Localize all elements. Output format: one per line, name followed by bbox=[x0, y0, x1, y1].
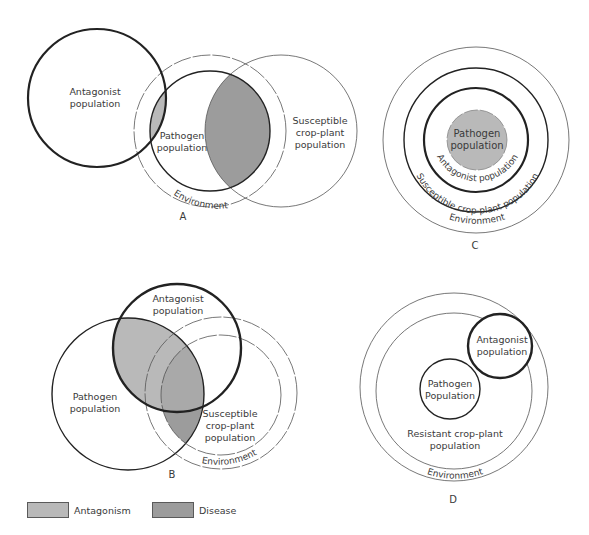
diagram-canvas: Antagonist population Pathogen populatio… bbox=[0, 0, 589, 535]
pathogen-label-d: Pathogen bbox=[428, 378, 473, 389]
pathogen-circle-d bbox=[420, 359, 480, 419]
antagonism-swatch bbox=[27, 502, 69, 518]
panel-d: Antagonist population Pathogen Populatio… bbox=[360, 293, 548, 505]
antagonist-label-d-2: population bbox=[477, 346, 528, 357]
panel-b: Antagonist population Pathogen populatio… bbox=[0, 260, 320, 490]
crop-label-d-2: population bbox=[430, 440, 481, 451]
pathogen-label-a: Pathogen bbox=[160, 130, 205, 141]
environment-label-b: Environment bbox=[201, 447, 258, 467]
pathogen-label-b: Pathogen bbox=[73, 391, 118, 402]
pathogen-label-b-2: population bbox=[70, 403, 121, 414]
crop-label-d: Resistant crop-plant bbox=[407, 428, 503, 439]
pathogen-label-d-2: Population bbox=[425, 390, 475, 401]
crop-label-a-3: population bbox=[295, 139, 346, 150]
antagonist-label-a: Antagonist bbox=[69, 86, 121, 97]
panel-label-b: B bbox=[169, 469, 176, 480]
antagonist-label-a-2: population bbox=[70, 98, 121, 109]
pathogen-label-c-2: population bbox=[450, 140, 503, 151]
pathogen-label-a-2: population bbox=[157, 142, 208, 153]
panel-label-d: D bbox=[449, 494, 457, 505]
crop-label-b-3: population bbox=[205, 432, 256, 443]
legend-item-antagonism: Antagonism bbox=[27, 502, 131, 518]
pathogen-label-c: Pathogen bbox=[454, 128, 501, 139]
crop-label-a-2: crop-plant bbox=[296, 127, 345, 138]
antagonist-label-d: Antagonist bbox=[476, 334, 528, 345]
crop-label-b: Susceptible bbox=[203, 408, 258, 419]
panel-a: Antagonist population Pathogen populatio… bbox=[28, 29, 357, 222]
panel-label-a: A bbox=[180, 211, 187, 222]
panel-label-c: C bbox=[472, 240, 479, 251]
antagonist-label-b-2: population bbox=[153, 305, 204, 316]
crop-label-a: Susceptible bbox=[293, 115, 348, 126]
legend-item-disease: Disease bbox=[152, 502, 236, 518]
legend-label-antagonism: Antagonism bbox=[74, 505, 131, 516]
antagonist-label-b: Antagonist bbox=[152, 293, 204, 304]
environment-label-a: Environment bbox=[172, 188, 229, 211]
disease-swatch bbox=[152, 502, 194, 518]
crop-label-b-2: crop-plant bbox=[206, 420, 255, 431]
legend-label-disease: Disease bbox=[199, 505, 236, 516]
panel-c: Pathogen population Antagonist populatio… bbox=[383, 47, 569, 251]
